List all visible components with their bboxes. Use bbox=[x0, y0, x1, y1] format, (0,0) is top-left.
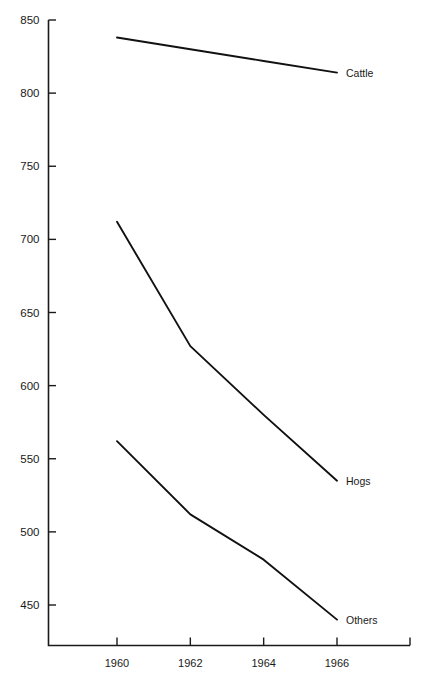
series-line-others bbox=[117, 441, 337, 619]
series-label-hogs: Hogs bbox=[346, 475, 371, 487]
series-lines bbox=[117, 38, 337, 620]
x-axis-ticks bbox=[117, 638, 410, 646]
y-axis-tick-label: 550 bbox=[20, 453, 39, 465]
series-label-cattle: Cattle bbox=[346, 67, 374, 79]
series-line-hogs bbox=[117, 222, 337, 481]
y-axis-tick-label: 600 bbox=[20, 380, 39, 392]
line-chart: 450500550600650700750800850 196019621964… bbox=[0, 0, 429, 687]
series-label-others: Others bbox=[346, 614, 378, 626]
y-axis-tick-label: 850 bbox=[20, 14, 39, 26]
x-axis-tick-label: 1962 bbox=[178, 657, 202, 669]
y-axis-tick-label: 650 bbox=[20, 307, 39, 319]
y-axis-tick-label: 750 bbox=[20, 160, 39, 172]
x-axis-tick-label: 1960 bbox=[105, 657, 129, 669]
x-axis-tick-label: 1966 bbox=[325, 657, 349, 669]
chart-canvas: 450500550600650700750800850 196019621964… bbox=[0, 0, 429, 687]
x-axis-tick-labels: 1960196219641966 bbox=[105, 657, 349, 669]
axes bbox=[49, 20, 411, 646]
y-axis-tick-label: 800 bbox=[20, 87, 39, 99]
series-labels: CattleHogsOthers bbox=[346, 67, 378, 626]
y-axis-tick-label: 500 bbox=[20, 526, 39, 538]
y-axis-tick-labels: 450500550600650700750800850 bbox=[20, 14, 39, 611]
y-axis-tick-label: 700 bbox=[20, 233, 39, 245]
y-axis-tick-label: 450 bbox=[20, 599, 39, 611]
series-line-cattle bbox=[117, 38, 337, 73]
y-axis-ticks bbox=[49, 20, 57, 605]
axis-lines bbox=[49, 20, 411, 646]
x-axis-tick-label: 1964 bbox=[251, 657, 275, 669]
